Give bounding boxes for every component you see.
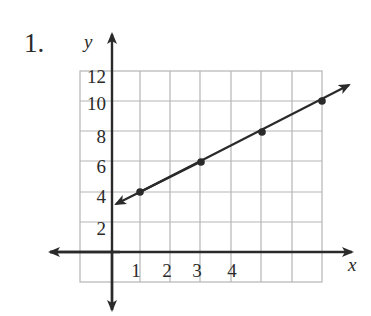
- data-point: [136, 188, 144, 196]
- x-axis-label: x: [347, 254, 357, 275]
- data-point: [258, 128, 266, 136]
- y-tick-label: 8: [97, 126, 107, 147]
- x-tick-label: 3: [192, 260, 202, 281]
- y-tick-label: 2: [97, 218, 107, 239]
- data-point: [318, 97, 326, 105]
- x-tick-label: 4: [227, 260, 237, 281]
- data-point: [197, 158, 205, 166]
- grid: [80, 71, 322, 282]
- x-tick-label: 2: [162, 260, 172, 281]
- graph-line-back: [116, 162, 200, 204]
- coordinate-graph: 12 10 8 6 4 2 1 2 3 4 x y: [0, 0, 371, 316]
- y-tick-label: 4: [97, 186, 107, 207]
- y-tick-label: 6: [97, 156, 107, 177]
- y-tick-label: 10: [87, 93, 106, 114]
- y-tick-label: 12: [87, 66, 106, 87]
- x-tick-label: 1: [131, 260, 141, 281]
- y-axis-label: y: [82, 31, 93, 52]
